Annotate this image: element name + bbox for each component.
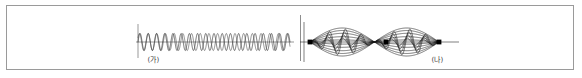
wave-figure: (가) (나) <box>0 0 582 78</box>
panel-standing-wave: (나) <box>300 6 575 69</box>
figure-frame: (가) (나) <box>6 5 574 70</box>
caption-standing-wave: (나) <box>300 54 575 64</box>
standing-node-2 <box>384 40 389 45</box>
caption-traveling-wave: (가) <box>7 54 300 64</box>
panel-traveling-wave: (가) <box>7 6 300 69</box>
standing-node-3 <box>437 40 442 45</box>
standing-node-1 <box>308 40 313 45</box>
